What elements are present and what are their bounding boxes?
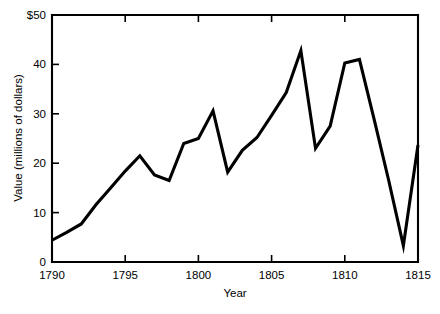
y-tick-label-20: 20 (33, 157, 46, 169)
x-tick-label-1795: 1795 (112, 269, 138, 281)
data-series-line (52, 51, 418, 246)
x-axis-tick-labels: 179017951800180518101815 (39, 269, 431, 281)
x-tick-label-1810: 1810 (332, 269, 358, 281)
x-axis-ticks (125, 15, 345, 262)
y-tick-label-40: 40 (33, 58, 46, 70)
line-chart: 010203040$50 179017951800180518101815 Ye… (0, 0, 440, 314)
x-tick-label-1815: 1815 (405, 269, 431, 281)
x-axis-title: Year (223, 287, 246, 299)
x-tick-label-1800: 1800 (186, 269, 212, 281)
x-tick-label-1790: 1790 (39, 269, 65, 281)
y-tick-label-0: 0 (40, 256, 46, 268)
y-axis-tick-labels: 010203040$50 (27, 9, 46, 268)
y-tick-label-30: 30 (33, 108, 46, 120)
y-axis-title: Value (millions of dollars) (12, 74, 24, 202)
chart-figure: 010203040$50 179017951800180518101815 Ye… (0, 0, 440, 314)
x-tick-label-1805: 1805 (259, 269, 285, 281)
plot-frame (52, 15, 418, 262)
y-tick-label-10: 10 (33, 207, 46, 219)
y-tick-label-$50: $50 (27, 9, 46, 21)
